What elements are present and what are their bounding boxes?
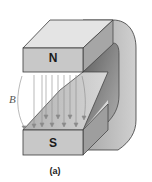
north-pole-label: N xyxy=(23,51,83,65)
figure-caption: (a) xyxy=(0,166,110,176)
magnet-illustration xyxy=(0,0,152,182)
field-label: B xyxy=(9,93,16,105)
horseshoe-magnet-diagram: N S B (a) xyxy=(0,0,152,182)
magnetic-field-lines xyxy=(18,75,86,129)
south-pole-label: S xyxy=(23,136,83,150)
